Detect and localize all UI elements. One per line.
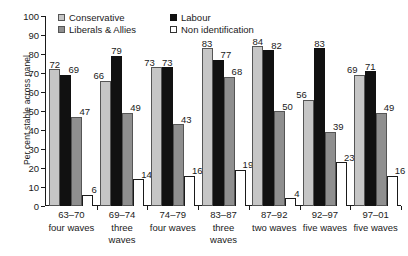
y-tick-mark bbox=[41, 206, 45, 207]
x-axis-label-waves: three waves bbox=[97, 222, 148, 247]
y-tick-mark bbox=[41, 168, 45, 169]
y-tick-mark bbox=[41, 111, 45, 112]
bar-conservative: 66 bbox=[100, 81, 111, 206]
bar-labour: 82 bbox=[263, 50, 274, 206]
x-axis-label-period: 92–97 bbox=[312, 209, 338, 220]
bar-value-label: 39 bbox=[333, 122, 344, 132]
bar-labour: 73 bbox=[162, 67, 173, 206]
bar-group-bars: 7269476 bbox=[46, 16, 97, 206]
bar-value-label: 82 bbox=[271, 41, 282, 51]
y-tick-label: 70 bbox=[28, 68, 39, 79]
bar-group: 7269476 bbox=[46, 16, 97, 206]
bar-labour: 69 bbox=[60, 75, 71, 206]
bar-nonid: 4 bbox=[285, 198, 296, 206]
bar-liberal: 68 bbox=[224, 77, 235, 206]
bar-value-label: 66 bbox=[93, 71, 104, 81]
bar-liberal: 49 bbox=[376, 113, 387, 206]
bar-liberal: 43 bbox=[173, 124, 184, 206]
bar-conservative: 83 bbox=[202, 48, 213, 206]
bar-group: 56833923 bbox=[300, 16, 351, 206]
x-axis-labels: 63–70four waves69–74three waves74–79four… bbox=[46, 209, 401, 247]
bar-value-label: 77 bbox=[221, 50, 232, 60]
y-tick-label: 30 bbox=[28, 144, 39, 155]
y-tick-mark bbox=[41, 187, 45, 188]
bar-value-label: 16 bbox=[395, 166, 406, 176]
x-axis-label-group: 97–01five waves bbox=[350, 209, 401, 247]
bar-nonid: 23 bbox=[336, 162, 347, 206]
bar-labour: 83 bbox=[314, 48, 325, 206]
x-axis-label-period: 97–01 bbox=[362, 209, 388, 220]
bar-value-label: 83 bbox=[202, 39, 213, 49]
bar-group: 83776819 bbox=[198, 16, 249, 206]
plot-area: 0102030405060708090100 72694766679491473… bbox=[45, 16, 401, 206]
y-tick-label: 60 bbox=[28, 87, 39, 98]
bar-nonid: 16 bbox=[387, 176, 398, 206]
y-tick-label: 10 bbox=[28, 182, 39, 193]
x-axis-label-period: 74–79 bbox=[160, 209, 186, 220]
bar-value-label: 68 bbox=[232, 67, 243, 77]
bar-value-label: 79 bbox=[111, 46, 122, 56]
x-axis-label-group: 74–79four waves bbox=[147, 209, 198, 247]
bar-group: 73734316 bbox=[147, 16, 198, 206]
bar-labour: 77 bbox=[213, 60, 224, 206]
bar-value-label: 73 bbox=[162, 58, 173, 68]
x-axis-label-waves: four waves bbox=[147, 222, 198, 235]
bar-group-bars: 56833923 bbox=[300, 16, 351, 206]
bar-group: 66794914 bbox=[97, 16, 148, 206]
bar-chart: Per cent stable across panel Conservativ… bbox=[0, 0, 408, 256]
x-axis-label-period: 69–74 bbox=[109, 209, 135, 220]
bar-group: 8482504 bbox=[249, 16, 300, 206]
y-tick-label: 50 bbox=[28, 106, 39, 117]
y-tick-label: 40 bbox=[28, 125, 39, 136]
y-tick-mark bbox=[41, 149, 45, 150]
bar-nonid: 6 bbox=[82, 195, 93, 206]
bar-value-label: 47 bbox=[79, 107, 90, 117]
bar-value-label: 43 bbox=[181, 115, 192, 125]
bar-conservative: 56 bbox=[303, 100, 314, 206]
bar-group-bars: 66794914 bbox=[97, 16, 148, 206]
bar-value-label: 73 bbox=[144, 58, 155, 68]
bar-conservative: 72 bbox=[49, 69, 60, 206]
bar-value-label: 69 bbox=[68, 65, 79, 75]
bar-conservative: 69 bbox=[354, 75, 365, 206]
bar-value-label: 49 bbox=[384, 103, 395, 113]
x-axis-label-waves: five waves bbox=[350, 222, 401, 235]
bar-group-bars: 73734316 bbox=[147, 16, 198, 206]
bar-liberal: 49 bbox=[122, 113, 133, 206]
bar-value-label: 84 bbox=[252, 37, 263, 47]
bar-groups: 7269476667949147373431683776819848250456… bbox=[46, 16, 401, 206]
bar-value-label: 49 bbox=[130, 103, 141, 113]
bar-group-bars: 8482504 bbox=[249, 16, 300, 206]
bar-conservative: 73 bbox=[151, 67, 162, 206]
bar-value-label: 83 bbox=[314, 39, 325, 49]
bar-liberal: 47 bbox=[71, 117, 82, 206]
y-tick-mark bbox=[41, 54, 45, 55]
y-tick-mark bbox=[41, 16, 45, 17]
bar-labour: 79 bbox=[111, 56, 122, 206]
bar-nonid: 19 bbox=[235, 170, 246, 206]
x-axis-label-group: 87–92two waves bbox=[249, 209, 300, 247]
x-axis-label-waves: two waves bbox=[249, 222, 300, 235]
bar-group: 69714916 bbox=[350, 16, 401, 206]
x-axis-label-group: 83–87three waves bbox=[198, 209, 249, 247]
bar-value-label: 71 bbox=[365, 62, 376, 72]
bar-nonid: 16 bbox=[184, 176, 195, 206]
bar-conservative: 84 bbox=[252, 46, 263, 206]
x-axis-label-waves: three waves bbox=[198, 222, 249, 247]
y-tick-label: 80 bbox=[28, 49, 39, 60]
y-tick-mark bbox=[41, 35, 45, 36]
x-axis-label-waves: four waves bbox=[46, 222, 97, 235]
x-axis-label-waves: five waves bbox=[300, 222, 351, 235]
bar-value-label: 56 bbox=[296, 90, 307, 100]
y-tick-mark bbox=[41, 130, 45, 131]
bar-value-label: 50 bbox=[282, 102, 293, 112]
bar-group-bars: 69714916 bbox=[350, 16, 401, 206]
y-tick-label: 20 bbox=[28, 163, 39, 174]
y-tick-mark bbox=[41, 73, 45, 74]
x-axis-label-group: 63–70four waves bbox=[46, 209, 97, 247]
y-tick-label: 90 bbox=[28, 30, 39, 41]
y-tick-label: 0 bbox=[34, 201, 39, 212]
y-tick-label: 100 bbox=[23, 11, 39, 22]
bar-nonid: 14 bbox=[133, 179, 144, 206]
bar-group-bars: 83776819 bbox=[198, 16, 249, 206]
